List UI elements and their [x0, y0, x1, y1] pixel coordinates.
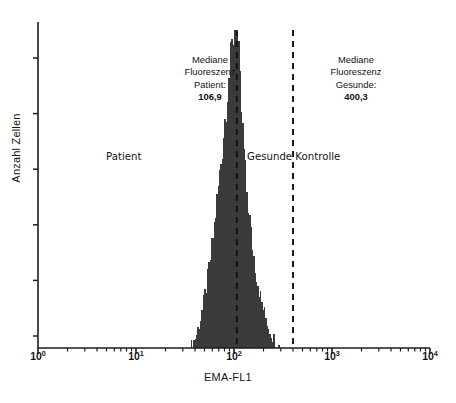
- histogram-bar: [274, 347, 276, 348]
- x-axis-tick-label: 100: [30, 350, 45, 362]
- x-axis-title: EMA-FL1: [0, 371, 456, 383]
- group-label-patient: Patient: [106, 151, 141, 162]
- median-patient-line2: Fluoreszenz: [160, 66, 260, 78]
- group-label-healthy: Gesunde Kontrolle: [247, 151, 340, 162]
- histogram-bar: [273, 334, 275, 348]
- median-patient-value: 106,9: [160, 91, 260, 103]
- x-axis-tick-label: 102: [226, 350, 241, 362]
- median-healthy-annotation: Mediane Fluoreszenz Gesunde: 400,3: [306, 54, 406, 104]
- y-axis-title: Anzahl Zellen: [10, 68, 22, 228]
- median-healthy-value: 400,3: [306, 91, 406, 103]
- flow-cytometry-figure: 100101102103104 EMA-FL1 Anzahl Zellen Me…: [0, 0, 456, 403]
- median-healthy-line2: Fluoreszenz: [306, 66, 406, 78]
- median-patient-annotation: Mediane Fluoreszenz Patient: 106,9: [160, 54, 260, 104]
- histogram-bar: [191, 340, 193, 348]
- x-axis-tick-label: 103: [324, 350, 339, 362]
- median-healthy-line3: Gesunde:: [306, 79, 406, 91]
- x-axis-tick-label: 101: [128, 350, 143, 362]
- x-axis-tick-label: 104: [422, 350, 437, 362]
- median-healthy-line1: Mediane: [306, 54, 406, 66]
- histogram-bar: [278, 345, 280, 348]
- median-patient-line3: Patient:: [160, 79, 260, 91]
- median-patient-line1: Mediane: [160, 54, 260, 66]
